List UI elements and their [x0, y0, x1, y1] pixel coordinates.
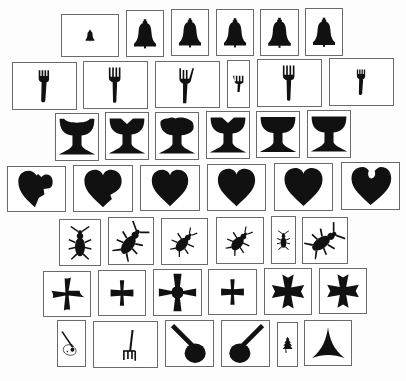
frying-pan-right-icon [222, 321, 269, 366]
frying-pan-left-icon [166, 321, 213, 366]
misc-frame [93, 321, 158, 368]
misc-frame [277, 322, 298, 367]
misc-frame [221, 320, 270, 367]
pitchfork-icon [94, 322, 157, 367]
tree-icon [278, 323, 297, 366]
guitar-icon [58, 321, 85, 366]
misc-frame [304, 320, 352, 366]
shape-figure [0, 0, 406, 381]
tri-star-icon [305, 321, 351, 365]
row-misc [0, 0, 406, 381]
misc-frame [165, 320, 214, 367]
misc-frame [57, 320, 86, 367]
